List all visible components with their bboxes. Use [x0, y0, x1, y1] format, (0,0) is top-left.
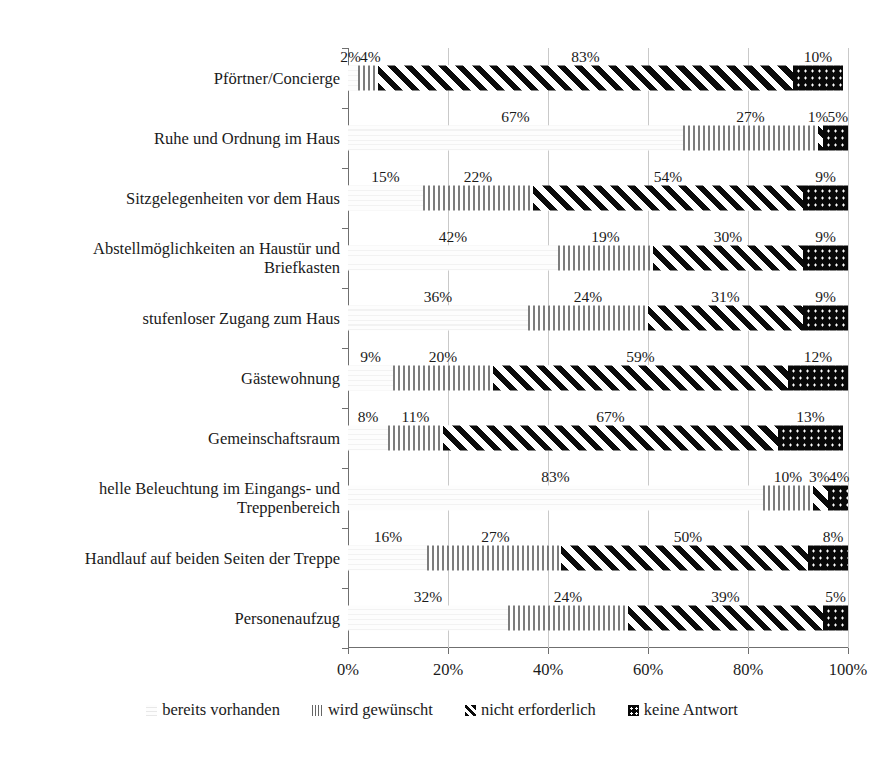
category-label: Pförtner/Concierge	[40, 69, 340, 88]
bar-value-label: 12%	[778, 349, 858, 365]
bar-segment-vertical-lines[interactable]	[427, 546, 561, 571]
stacked-bar[interactable]	[348, 546, 848, 571]
bar-segment-black-dots[interactable]	[828, 486, 848, 511]
bar-segment-black-dots[interactable]	[803, 306, 848, 331]
stacked-bar[interactable]	[348, 606, 848, 631]
bar-value-label: 9%	[331, 349, 411, 365]
bar-segment-diagonal-hatch[interactable]	[813, 486, 828, 511]
x-axis-tick-label: 40%	[513, 660, 583, 680]
bar-segment-blank[interactable]	[348, 306, 528, 331]
bar-segment-diagonal-hatch[interactable]	[648, 306, 803, 331]
category-label: Handlauf auf beiden Seiten der Treppe	[40, 549, 340, 568]
bar-segment-vertical-lines[interactable]	[358, 66, 378, 91]
bar-segment-diagonal-hatch[interactable]	[628, 606, 823, 631]
bar-segment-blank[interactable]	[348, 246, 558, 271]
bar-segment-black-dots[interactable]	[808, 546, 848, 571]
bar-value-label: 83%	[516, 469, 596, 485]
category-label-line: Gästewohnung	[40, 369, 340, 388]
bar-segment-vertical-lines[interactable]	[558, 246, 653, 271]
bar-segment-blank[interactable]	[348, 606, 508, 631]
legend-item[interactable]: bereits vorhanden	[146, 700, 280, 720]
bar-segment-vertical-lines[interactable]	[388, 426, 443, 451]
stacked-bar[interactable]	[348, 246, 848, 271]
bar-segment-blank[interactable]	[348, 66, 358, 91]
legend-label: keine Antwort	[644, 700, 738, 720]
stacked-bar-chart: Pförtner/ConciergeRuhe und Ordnung im Ha…	[0, 0, 884, 762]
bar-segment-diagonal-hatch[interactable]	[561, 546, 809, 571]
bar-row: 8%11%67%13%	[348, 408, 848, 468]
bar-segment-vertical-lines[interactable]	[683, 126, 818, 151]
bar-segment-vertical-lines[interactable]	[528, 306, 648, 331]
legend-item[interactable]: wird gewünscht	[312, 700, 433, 720]
bar-segment-blank[interactable]	[348, 186, 423, 211]
bar-segment-vertical-lines[interactable]	[763, 486, 813, 511]
category-label-line: Personenaufzug	[40, 609, 340, 628]
plot-area: 2%4%83%10%67%27%1%5%15%22%54%9%42%19%30%…	[348, 48, 848, 648]
stacked-bar[interactable]	[348, 366, 848, 391]
legend-swatch-icon	[465, 705, 476, 716]
bar-segment-black-dots[interactable]	[793, 66, 843, 91]
bar-value-label: 15%	[346, 169, 426, 185]
bar-segment-diagonal-hatch[interactable]	[533, 186, 803, 211]
stacked-bar[interactable]	[348, 126, 848, 151]
bar-value-label: 59%	[601, 349, 681, 365]
legend-swatch-icon	[146, 705, 157, 716]
bar-value-label: 11%	[376, 409, 456, 425]
stacked-bar[interactable]	[348, 426, 848, 451]
bar-segment-black-dots[interactable]	[788, 366, 848, 391]
bar-value-label: 5%	[796, 589, 876, 605]
bar-segment-vertical-lines[interactable]	[508, 606, 628, 631]
bar-segment-black-dots[interactable]	[823, 606, 848, 631]
bar-value-label: 30%	[688, 229, 768, 245]
bar-row: 9%20%59%12%	[348, 348, 848, 408]
bar-segment-blank[interactable]	[348, 366, 393, 391]
bar-segment-vertical-lines[interactable]	[393, 366, 493, 391]
category-label: Ruhe und Ordnung im Haus	[40, 129, 340, 148]
bar-segment-diagonal-hatch[interactable]	[493, 366, 788, 391]
bar-value-label: 13%	[771, 409, 851, 425]
bar-value-label: 19%	[566, 229, 646, 245]
bar-value-label: 20%	[403, 349, 483, 365]
x-axis-tick-label: 80%	[713, 660, 783, 680]
category-label: Personenaufzug	[40, 609, 340, 628]
bar-segment-blank[interactable]	[348, 426, 388, 451]
bar-segment-blank[interactable]	[348, 546, 427, 571]
category-label-line: stufenloser Zugang zum Haus	[40, 309, 340, 328]
legend-item[interactable]: keine Antwort	[628, 700, 738, 720]
bar-segment-black-dots[interactable]	[803, 246, 848, 271]
category-label-line: Sitzgelegenheiten vor dem Haus	[40, 189, 340, 208]
x-axis-tick-label: 20%	[413, 660, 483, 680]
bar-segment-diagonal-hatch[interactable]	[653, 246, 803, 271]
category-label-line: Briefkasten	[40, 258, 340, 277]
bar-segment-black-dots[interactable]	[778, 426, 843, 451]
bar-value-label: 4%	[799, 469, 879, 485]
stacked-bar[interactable]	[348, 486, 848, 511]
bar-value-label: 24%	[528, 589, 608, 605]
bar-segment-blank[interactable]	[348, 486, 763, 511]
stacked-bar[interactable]	[348, 66, 848, 91]
category-label: Gemeinschaftsraum	[40, 429, 340, 448]
bar-segment-diagonal-hatch[interactable]	[443, 426, 778, 451]
legend-swatch-icon	[628, 705, 639, 716]
bar-value-label: 9%	[786, 169, 866, 185]
x-axis-tick	[448, 648, 449, 654]
bar-value-label: 9%	[786, 289, 866, 305]
bar-segment-diagonal-hatch[interactable]	[378, 66, 793, 91]
legend-label: bereits vorhanden	[162, 700, 280, 720]
bar-segment-vertical-lines[interactable]	[423, 186, 533, 211]
x-axis-tick	[748, 648, 749, 654]
bar-value-label: 9%	[786, 229, 866, 245]
x-axis-tick	[648, 648, 649, 654]
bar-segment-black-dots[interactable]	[823, 126, 848, 151]
bar-row: 83%10%3%4%	[348, 468, 848, 528]
bar-segment-blank[interactable]	[348, 126, 683, 151]
bar-value-label: 42%	[413, 229, 493, 245]
legend-item[interactable]: nicht erforderlich	[465, 700, 596, 720]
bar-value-label: 32%	[388, 589, 468, 605]
bar-segment-black-dots[interactable]	[803, 186, 848, 211]
stacked-bar[interactable]	[348, 306, 848, 331]
bar-row: 36%24%31%9%	[348, 288, 848, 348]
stacked-bar[interactable]	[348, 186, 848, 211]
bar-value-label: 54%	[628, 169, 708, 185]
legend-label: nicht erforderlich	[481, 700, 596, 720]
